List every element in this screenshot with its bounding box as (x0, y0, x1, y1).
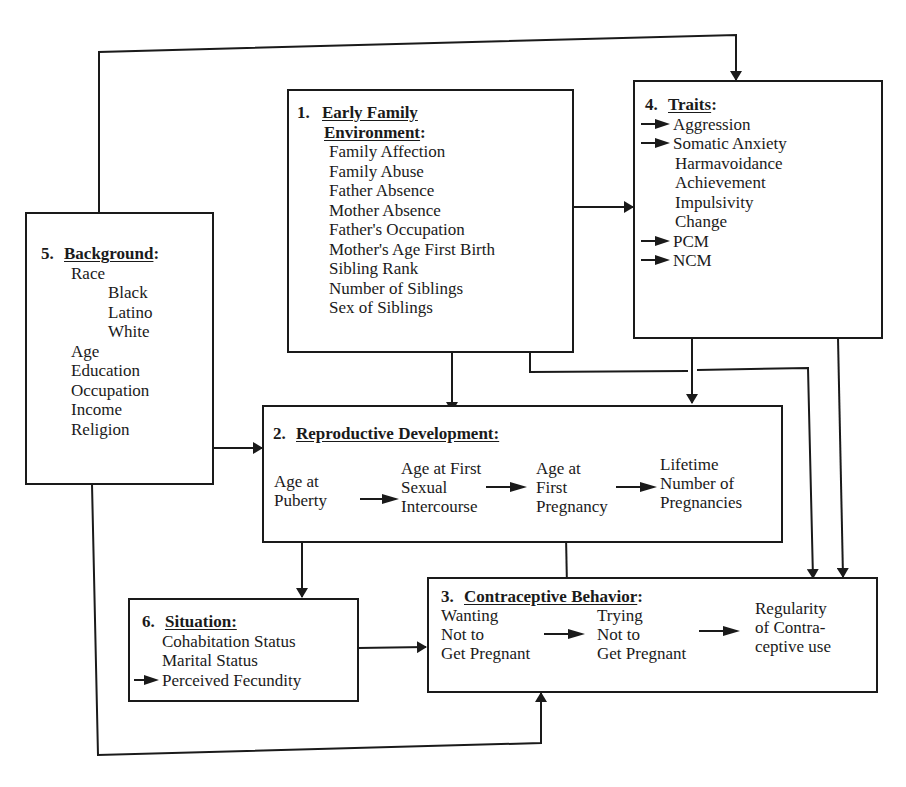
arrow-icon (616, 481, 658, 493)
arrow-icon (641, 118, 671, 130)
node-situation: 6. Situation: Cohabitation Status Marita… (128, 598, 359, 702)
stage-lifetime-pregnancies: Lifetime Number of Pregnancies (660, 455, 742, 512)
variable-label: Sex of Siblings (329, 298, 495, 318)
variable-row: Somatic Anxiety (641, 134, 787, 154)
variable-label: Marital Status (134, 651, 301, 671)
stage-line: of Contra- (755, 618, 831, 637)
stage-line: Get Pregnant (597, 644, 686, 663)
edge-family-contraceptive-a (530, 352, 688, 372)
stage-line: Number of (660, 474, 742, 493)
colon: : (153, 244, 159, 263)
variable-label: Occupation (71, 381, 159, 401)
variable-row: NCM (641, 251, 787, 271)
stage-line: Intercourse (401, 497, 481, 516)
node-number: 4. (645, 95, 658, 114)
node-title: 2. Reproductive Development: (273, 424, 499, 444)
node-reproductive-development: 2. Reproductive Development: Age at Pube… (262, 405, 783, 543)
stage-line: Pregnancies (660, 493, 742, 512)
colon: : (711, 95, 717, 114)
variable-label: Mother Absence (329, 201, 495, 221)
node-number: 6. (142, 612, 155, 631)
arrow-icon (641, 137, 671, 149)
edge-traits-contraceptive (838, 338, 843, 577)
node-title-text: Contraceptive Behavior (464, 587, 637, 606)
stage-trying-not-pregnant: Trying Not to Get Pregnant (597, 606, 686, 663)
node-title-text: Traits (668, 95, 711, 114)
stage-line: Get Pregnant (441, 644, 530, 663)
arrow-icon (360, 493, 400, 505)
node-title-text: Reproductive Development: (296, 424, 499, 443)
stage-line: Not to (441, 625, 530, 644)
node-number: 2. (273, 424, 286, 443)
variable-label: Mother's Age First Birth (329, 240, 495, 260)
arrow-icon (641, 254, 671, 266)
stage-wanting-not-pregnant: Wanting Not to Get Pregnant (441, 606, 530, 663)
variable-label: Aggression (673, 115, 750, 134)
stage-age-first-pregnancy: Age at First Pregnancy (536, 459, 608, 516)
variable-row: Aggression (641, 115, 787, 135)
stage-line: Wanting (441, 606, 530, 625)
arrow-icon (641, 235, 671, 247)
node-title: 5. Background: (41, 244, 159, 264)
variable-label: Perceived Fecundity (162, 671, 301, 690)
arrow-icon (486, 481, 528, 493)
variable-label: Religion (71, 420, 159, 440)
arrow-icon (134, 674, 160, 686)
node-background: 5. Background: Race Black Latino White A… (25, 212, 214, 485)
node-title: 4. Traits: (641, 95, 787, 115)
colon: : (420, 123, 426, 142)
node-contraceptive-behavior: 3. Contraceptive Behavior: Wanting Not t… (427, 577, 878, 693)
node-number: 1. (297, 103, 310, 122)
stage-line: Lifetime (660, 455, 742, 474)
node-title-line2: Environment (324, 123, 420, 142)
stage-line: Trying (597, 606, 686, 625)
arrow-icon (699, 625, 741, 637)
variable-label: Family Affection (329, 142, 495, 162)
node-title: 3. Contraceptive Behavior: (441, 587, 643, 607)
variable-row: PCM (641, 232, 787, 252)
variable-label: PCM (673, 232, 709, 251)
variable-label: Income (71, 400, 159, 420)
stage-age-at-puberty: Age at Puberty (274, 472, 327, 510)
stage-line: Sexual (401, 478, 481, 497)
variable-row: Perceived Fecundity (134, 671, 301, 691)
variable-label: Change (641, 212, 787, 232)
stage-line: Age at (536, 459, 608, 478)
node-early-family-environment: 1. Early Family Environment: Family Affe… (287, 89, 574, 353)
variable-label: Achievement (641, 173, 787, 193)
variable-label: Family Abuse (329, 162, 495, 182)
stage-line: Pregnancy (536, 497, 608, 516)
stage-line: Not to (597, 625, 686, 644)
node-number: 5. (41, 244, 54, 263)
colon: : (637, 587, 643, 606)
arrow-icon (544, 628, 586, 640)
stage-age-first-intercourse: Age at First Sexual Intercourse (401, 459, 481, 516)
variable-sublabel: White (71, 322, 159, 342)
variable-label: Harmavoidance (641, 154, 787, 174)
node-title-line1: Early Family (322, 103, 418, 122)
variable-label: Sibling Rank (329, 259, 495, 279)
node-title-text: Situation: (165, 612, 237, 631)
stage-line: Puberty (274, 491, 327, 510)
variable-label: Somatic Anxiety (673, 134, 787, 153)
variable-label: Father Absence (329, 181, 495, 201)
path-diagram: 1. Early Family Environment: Family Affe… (0, 0, 906, 787)
variable-label: Father's Occupation (329, 220, 495, 240)
variable-sublabel: Latino (71, 303, 159, 323)
node-title: 1. Early Family (297, 103, 495, 123)
variable-label: Number of Siblings (329, 279, 495, 299)
stage-line: Age at (274, 472, 327, 491)
variable-label: Impulsivity (641, 193, 787, 213)
variable-sublabel: Black (71, 283, 159, 303)
stage-regularity-contraceptive-use: Regularity of Contra- ceptive use (755, 599, 831, 656)
stage-line: Age at First (401, 459, 481, 478)
stage-line: Regularity (755, 599, 831, 618)
node-title-text: Background (64, 244, 153, 263)
variable-label: NCM (673, 251, 712, 270)
node-title: 6. Situation: (134, 612, 301, 632)
node-traits: 4. Traits: Aggression Somatic Anxiety Ha… (633, 80, 883, 339)
edge-situation-contraceptive (358, 647, 426, 648)
variable-label: Cohabitation Status (134, 632, 301, 652)
stage-line: ceptive use (755, 637, 831, 656)
variable-label: Race (71, 264, 159, 284)
